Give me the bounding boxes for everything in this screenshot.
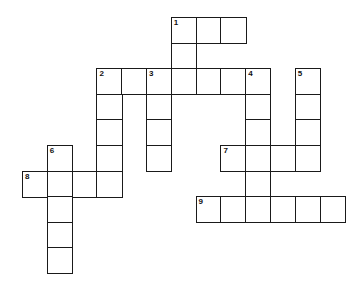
crossword-cell[interactable] — [171, 43, 197, 70]
crossword-cell[interactable] — [245, 171, 271, 198]
clue-number: 8 — [25, 173, 29, 181]
crossword-cell[interactable] — [146, 119, 172, 146]
crossword-cell[interactable]: 3 — [146, 68, 172, 95]
clue-number: 2 — [99, 70, 103, 78]
clue-number: 3 — [149, 70, 153, 78]
crossword-cell[interactable]: 1 — [171, 17, 197, 44]
crossword-cell[interactable] — [96, 94, 122, 121]
crossword-cell[interactable] — [146, 94, 172, 121]
crossword-cell[interactable] — [245, 145, 271, 172]
crossword-cell[interactable] — [171, 68, 197, 95]
crossword-cell[interactable]: 2 — [96, 68, 122, 95]
clue-number: 4 — [248, 70, 252, 78]
crossword-cell[interactable] — [245, 196, 271, 223]
crossword-cell[interactable]: 4 — [245, 68, 271, 95]
crossword-cell[interactable] — [47, 171, 73, 198]
crossword-cell[interactable] — [245, 94, 271, 121]
crossword-cell[interactable] — [270, 145, 296, 172]
crossword-cell[interactable]: 5 — [295, 68, 321, 95]
crossword-cell[interactable] — [295, 94, 321, 121]
crossword-cell[interactable] — [196, 68, 222, 95]
crossword-cell[interactable]: 8 — [22, 171, 48, 198]
crossword-cell[interactable] — [96, 171, 122, 198]
crossword-cell[interactable] — [72, 171, 98, 198]
crossword-cell[interactable]: 6 — [47, 145, 73, 172]
crossword-cell[interactable] — [96, 145, 122, 172]
clue-number: 9 — [199, 198, 203, 206]
clue-number: 7 — [223, 147, 227, 155]
crossword-cell[interactable] — [295, 119, 321, 146]
crossword-cell[interactable] — [196, 17, 222, 44]
crossword-cell[interactable] — [220, 196, 246, 223]
crossword-cell[interactable] — [270, 196, 296, 223]
crossword-cell[interactable] — [220, 17, 246, 44]
crossword-cell[interactable] — [47, 247, 73, 274]
clue-number: 6 — [50, 147, 54, 155]
crossword-cell[interactable]: 7 — [220, 145, 246, 172]
crossword-cell[interactable] — [96, 119, 122, 146]
crossword-cell[interactable] — [47, 196, 73, 223]
crossword-cell[interactable] — [295, 145, 321, 172]
crossword-cell[interactable] — [295, 196, 321, 223]
crossword-cell[interactable] — [121, 68, 147, 95]
crossword-cell[interactable] — [146, 145, 172, 172]
crossword-cell[interactable] — [245, 119, 271, 146]
crossword-cell[interactable] — [320, 196, 346, 223]
clue-number: 1 — [174, 19, 178, 27]
crossword-cell[interactable] — [220, 68, 246, 95]
crossword-cell[interactable] — [47, 222, 73, 249]
crossword-cell[interactable]: 9 — [196, 196, 222, 223]
clue-number: 5 — [298, 70, 302, 78]
crossword-grid: 123456789 — [0, 0, 362, 294]
